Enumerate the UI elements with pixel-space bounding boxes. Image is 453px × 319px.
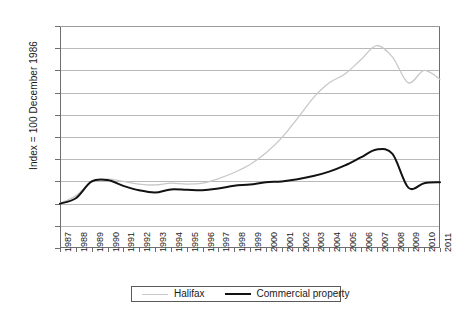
x-tick-2011 — [440, 248, 441, 252]
x-tick-label-2005: 2005 — [349, 232, 358, 252]
x-tick-1993 — [155, 248, 156, 252]
x-tick-label-1995: 1995 — [191, 232, 200, 252]
legend-label-commercial-property: Commercial property — [257, 289, 350, 299]
x-tick-label-2002: 2002 — [302, 232, 311, 252]
legend-label-halifax: Halifax — [174, 289, 205, 299]
x-tick-label-1992: 1992 — [143, 232, 152, 252]
x-tick-label-2001: 2001 — [286, 232, 295, 252]
x-tick-label-1997: 1997 — [222, 232, 231, 252]
legend-item-halifax: Halifax — [142, 287, 205, 301]
x-tick-2010 — [424, 248, 425, 252]
x-tick-label-2011: 2011 — [444, 233, 453, 252]
x-tick-2008 — [393, 248, 394, 252]
halifax-line-swatch-icon — [142, 294, 168, 295]
x-tick-2001 — [282, 248, 283, 252]
x-tick-2007 — [377, 248, 378, 252]
x-tick-label-2010: 2010 — [428, 232, 437, 252]
x-tick-1991 — [123, 248, 124, 252]
x-tick-label-1991: 1991 — [127, 232, 136, 252]
series-layer — [60, 26, 440, 248]
x-tick-1996 — [203, 248, 204, 252]
x-tick-label-2008: 2008 — [397, 232, 406, 252]
series-line-commercial-property — [60, 149, 440, 204]
x-tick-label-1999: 1999 — [254, 232, 263, 252]
x-tick-2000 — [266, 248, 267, 252]
x-tick-1990 — [108, 248, 109, 252]
x-tick-2009 — [408, 248, 409, 252]
x-tick-1994 — [171, 248, 172, 252]
x-tick-label-1993: 1993 — [159, 232, 168, 252]
x-tick-2003 — [313, 248, 314, 252]
commercial-line-swatch-icon — [225, 293, 251, 295]
x-tick-label-2007: 2007 — [381, 232, 390, 252]
x-tick-label-2003: 2003 — [317, 232, 326, 252]
legend-item-commercial-property: Commercial property — [225, 287, 350, 301]
chart-legend: Halifax Commercial property — [131, 286, 341, 302]
x-tick-1992 — [139, 248, 140, 252]
x-tick-label-2006: 2006 — [365, 232, 374, 252]
x-tick-1999 — [250, 248, 251, 252]
x-tick-label-2004: 2004 — [333, 232, 342, 252]
plot-area — [60, 26, 440, 248]
x-tick-label-1996: 1996 — [207, 232, 216, 252]
x-tick-label-1994: 1994 — [175, 232, 184, 252]
x-tick-1989 — [92, 248, 93, 252]
y-axis-title: Index = 100 December 1986 — [28, 6, 39, 206]
x-tick-1995 — [187, 248, 188, 252]
x-tick-label-2000: 2000 — [270, 232, 279, 252]
x-tick-2004 — [329, 248, 330, 252]
x-tick-1998 — [234, 248, 235, 252]
x-tick-2005 — [345, 248, 346, 252]
x-tick-1987 — [60, 248, 61, 252]
x-tick-label-1998: 1998 — [238, 232, 247, 252]
x-tick-label-2009: 2009 — [412, 232, 421, 252]
x-tick-1988 — [76, 248, 77, 252]
x-tick-1997 — [218, 248, 219, 252]
x-tick-label-1990: 1990 — [112, 232, 121, 252]
x-tick-2002 — [298, 248, 299, 252]
x-tick-label-1989: 1989 — [96, 232, 105, 252]
x-tick-2006 — [361, 248, 362, 252]
x-tick-label-1987: 1987 — [64, 232, 73, 252]
x-tick-label-1988: 1988 — [80, 232, 89, 252]
series-line-halifax — [60, 46, 440, 204]
